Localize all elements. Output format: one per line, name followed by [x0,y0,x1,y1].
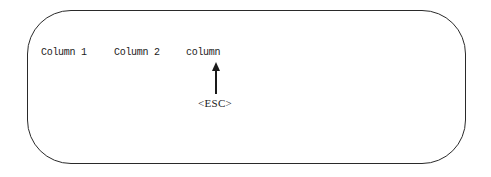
column-2-label: Column 2 [114,47,160,58]
up-arrow-icon [210,62,222,94]
column-1-label: Column 1 [41,47,87,58]
cursor-column-label: column [186,47,220,58]
screen-frame [27,10,466,164]
esc-key-label: <ESC> [198,97,232,109]
